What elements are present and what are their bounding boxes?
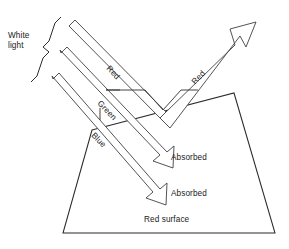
absorbed-green-label: Absorbed xyxy=(171,153,207,163)
white-light-label-line2: light xyxy=(8,41,29,51)
white-light-label: White light xyxy=(8,31,29,50)
diagram-canvas xyxy=(0,0,289,249)
absorbed-blue-label: Absorbed xyxy=(171,189,207,199)
light-reflection-diagram: White light Red Green Blue Red Absorbed … xyxy=(0,0,289,249)
white-light-label-line1: White xyxy=(8,31,29,41)
red-ray-reflected-arrow xyxy=(160,22,256,128)
white-light-brace xyxy=(31,17,61,82)
red-surface-label: Red surface xyxy=(144,215,189,225)
